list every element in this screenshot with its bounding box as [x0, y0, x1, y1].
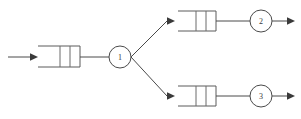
server-3: 3	[250, 85, 272, 107]
server-3-label: 3	[259, 92, 263, 101]
diagram-canvas: 1 2	[0, 0, 301, 119]
departure-arrow-2-head	[287, 17, 295, 25]
branch-up-arrow-shaft	[131, 21, 167, 57]
server-1-label: 1	[118, 53, 122, 62]
queue-2-body	[178, 11, 216, 31]
branch-up-arrow	[131, 17, 175, 57]
queue-2	[178, 11, 216, 31]
departure-arrow-2	[272, 17, 295, 25]
arrival-arrow-head	[30, 53, 38, 61]
queue-1-body	[38, 46, 80, 67]
server-1: 1	[109, 46, 131, 68]
queueing-network-diagram: 1 2	[0, 0, 301, 119]
departure-arrow-3	[272, 92, 295, 100]
branch-down-arrow-shaft	[131, 57, 167, 96]
departure-arrow-3-head	[287, 92, 295, 100]
branch-up-arrow-head	[167, 17, 175, 25]
arrival-arrow	[8, 53, 38, 61]
branch-down-arrow	[131, 57, 175, 100]
server-2: 2	[250, 10, 272, 32]
queue-3-body	[178, 86, 216, 106]
branch-down-arrow-head	[167, 92, 175, 100]
server-2-label: 2	[259, 17, 263, 26]
queue-1	[38, 46, 80, 67]
queue-3	[178, 86, 216, 106]
